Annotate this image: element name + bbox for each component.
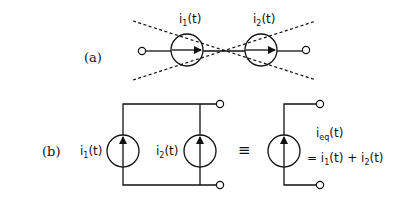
terminal-b-bottom — [216, 181, 223, 188]
terminal-eq-bottom — [316, 181, 323, 188]
terminal-a-right — [302, 46, 309, 53]
source-b1-label: i1(t) — [80, 144, 103, 160]
circuit-diagram: (a) i1(t) i2(t) (b) i1(t) i2(t) ≡ — [0, 0, 398, 197]
part-a-label: (a) — [84, 50, 102, 65]
current-source-b1 — [107, 135, 139, 167]
terminal-eq-top — [316, 100, 323, 107]
terminal-b-top — [216, 100, 223, 107]
source-a1-label: i1(t) — [179, 12, 202, 28]
terminal-a-left — [138, 47, 145, 54]
current-source-equivalent — [268, 135, 300, 167]
equivalent-source-label: ieq(t) — [316, 126, 343, 142]
source-b2-label: i2(t) — [156, 144, 179, 160]
equivalence-symbol: ≡ — [238, 141, 251, 159]
equivalent-wires — [284, 104, 316, 185]
part-b-label: (b) — [42, 144, 60, 159]
current-source-b2 — [184, 135, 216, 167]
source-a2-label: i2(t) — [253, 12, 276, 28]
equivalent-source-expression: = i1(t) + i2(t) — [307, 151, 384, 167]
